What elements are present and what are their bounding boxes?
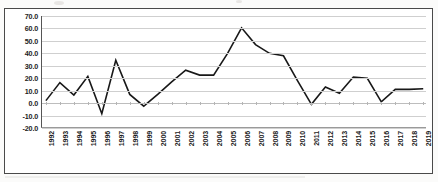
x-axis-tick-label: 2012 [327,131,334,146]
y-axis-labels: 70.060.050.040.030.020.010.00.0-10.0-20.… [5,9,41,135]
x-axis-tick [409,102,410,105]
x-axis-tick [74,102,75,105]
y-axis-tick-label: -10.0 [23,111,38,120]
x-axis-tick-label: 2017 [397,131,404,146]
x-axis-tick-label: 2016 [383,131,390,146]
x-axis-tick [60,102,61,105]
x-axis-tick [353,102,354,105]
x-axis-tick-label: 1998 [132,131,139,146]
scanned-page: 70.060.050.040.030.020.010.00.0-10.0-20.… [0,0,438,182]
x-axis-tick-label: 2010 [299,131,306,146]
y-axis-tick-label: 10.0 [25,86,38,95]
x-axis-tick-label: 2015 [369,131,376,146]
x-axis-tick [270,102,271,105]
x-axis-tick-label: 2013 [341,131,348,146]
gridline [42,103,426,104]
x-axis-tick-label: 2006 [244,131,251,146]
y-axis-tick-label: 50.0 [25,36,38,45]
x-axis-tick-label: 1992 [48,131,55,146]
y-axis-tick-label: 70.0 [25,12,38,21]
x-axis-tick-label: 1994 [76,131,83,146]
x-axis-tick-label: 1997 [118,131,125,146]
x-axis-tick [325,102,326,105]
x-axis-tick [88,102,89,105]
x-axis-tick [339,102,340,105]
x-axis-tick [144,102,145,105]
x-axis-tick-label: 2007 [258,131,265,146]
x-axis-tick-label: 2019 [425,131,432,146]
x-axis-tick-label: 2009 [285,131,292,146]
x-axis-tick-label: 2001 [174,131,181,146]
line-series-svg [42,16,427,128]
gridline [42,28,426,29]
y-axis-tick-label: 20.0 [25,74,38,83]
x-axis-tick [242,102,243,105]
y-axis-tick-label: 60.0 [25,24,38,33]
x-axis-tick [423,102,424,105]
x-axis-tick-label: 2014 [355,131,362,146]
x-axis-tick [102,102,103,105]
gridline [42,78,426,79]
x-axis-tick [395,102,396,105]
scan-artifact-icon [54,1,64,5]
x-axis-tick-label: 1995 [90,131,97,146]
x-axis-tick-label: 2004 [216,131,223,146]
x-axis-tick-label: 1996 [104,131,111,146]
y-axis-tick-label: 0.0 [29,99,38,108]
x-axis-tick [186,102,187,105]
gridline [42,16,426,17]
x-axis-tick [297,102,298,105]
scan-artifact-icon [5,176,305,178]
x-axis-tick [228,102,229,105]
gridline [42,66,426,67]
plot-area [41,16,426,128]
x-axis-tick-label: 1999 [146,131,153,146]
y-axis-tick-label: -20.0 [23,124,38,133]
x-axis-tick [311,102,312,105]
x-axis-tick [172,102,173,105]
scan-artifact-icon [236,0,242,3]
x-axis-tick-label: 2018 [411,131,418,146]
x-axis-tick [200,102,201,105]
x-axis-tick [381,102,382,105]
x-axis-tick-label: 2000 [160,131,167,146]
x-axis-labels: 1992199319941995199619971998199920002001… [41,129,426,173]
x-axis-tick [158,102,159,105]
x-axis-tick [116,102,117,105]
x-axis-tick-label: 2005 [230,131,237,146]
chart-frame: 70.060.050.040.030.020.010.00.0-10.0-20.… [4,8,433,174]
x-axis-tick [214,102,215,105]
x-axis-tick [283,102,284,105]
y-axis-tick-label: 40.0 [25,49,38,58]
x-axis-tick [130,102,131,105]
gridline [42,41,426,42]
x-axis-tick [367,102,368,105]
x-axis-tick-label: 2008 [272,131,279,146]
gridline [42,116,426,117]
x-axis-tick-label: 1993 [62,131,69,146]
gridline [42,53,426,54]
y-axis-tick-label: 30.0 [25,61,38,70]
gridline [42,91,426,92]
x-axis-tick-label: 2011 [313,131,320,146]
x-axis-tick [256,102,257,105]
x-axis-tick-label: 2003 [202,131,209,146]
x-axis-tick [46,102,47,105]
x-axis-tick-label: 2002 [188,131,195,146]
